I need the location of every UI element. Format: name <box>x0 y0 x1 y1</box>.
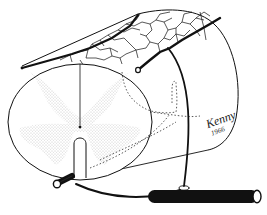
segmental-artery <box>148 190 261 203</box>
spinal-cord-drawing <box>0 0 267 215</box>
posterior-artery-lumen <box>136 67 141 72</box>
cross-section-face <box>8 64 152 180</box>
radicular-artery <box>168 48 189 190</box>
anterior-artery-lumen <box>53 180 60 188</box>
central-canal <box>79 126 82 129</box>
spinal-cord-illustration: Kenny 1966 <box>0 0 267 215</box>
